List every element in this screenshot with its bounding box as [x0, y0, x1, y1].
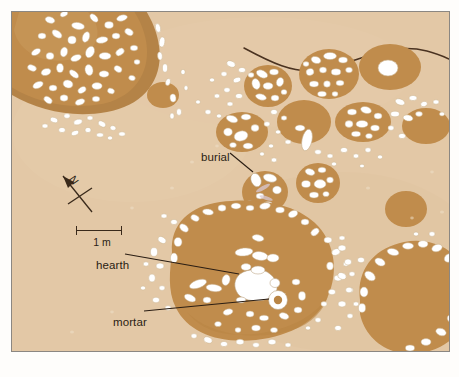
- feature-pit-c: [359, 44, 421, 90]
- scale-tick-right: [121, 226, 122, 235]
- scale-bar-caption: 1 m: [70, 236, 132, 248]
- feature-pit-a: [244, 65, 292, 107]
- north-letter: N: [67, 173, 81, 186]
- feature-pit-i: [296, 163, 340, 203]
- feature-pit-h: [385, 191, 427, 227]
- feature-mortar: [269, 291, 288, 310]
- label-hearth: hearth: [96, 259, 129, 271]
- feature-pit-b: [299, 49, 359, 99]
- label-mortar: mortar: [113, 316, 147, 328]
- feature-pit-f: [335, 102, 391, 142]
- scale-tick-left: [76, 226, 77, 235]
- scale-bar: 1 m: [70, 226, 132, 248]
- figure-page: N 1 m burial hearth mortar: [0, 0, 459, 377]
- site-plan-map: N 1 m burial hearth mortar: [11, 11, 450, 352]
- label-burial: burial: [201, 151, 230, 163]
- scale-bar-rule: [70, 226, 132, 235]
- north-arrow: N: [60, 172, 116, 228]
- feature-pit-d: [216, 112, 268, 152]
- scale-bar-line: [76, 230, 122, 231]
